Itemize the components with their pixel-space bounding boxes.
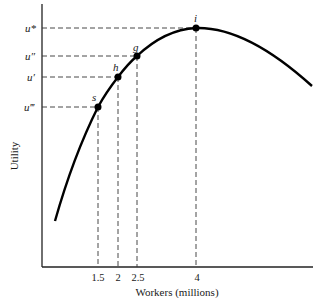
x-tick-1-5: 1.5 [91,272,104,283]
y-tick-u-triple-prime: u‴ [24,101,36,113]
point-label-i: i [194,12,197,24]
y-tick-u-star: u* [25,22,37,34]
x-tick-2-5: 2.5 [131,272,144,283]
utility-chart: s h g i u* u″ u′ u‴ 1.5 2 2.5 4 Workers … [0,0,323,298]
x-tick-2: 2 [115,272,120,283]
point-label-h: h [113,61,119,73]
y-tick-u-double-prime: u″ [25,50,36,62]
point-s [95,104,102,111]
point-h [115,74,122,81]
x-axis-title: Workers (millions) [135,286,218,298]
y-tick-u-prime: u′ [27,71,36,83]
point-label-s: s [92,91,96,103]
y-axis-title: Utility [8,141,20,170]
point-i [193,25,200,32]
point-g [134,53,141,60]
horizontal-guides [42,28,196,107]
utility-curve [55,28,312,221]
point-label-g: g [133,41,139,53]
x-tick-4: 4 [194,272,200,283]
